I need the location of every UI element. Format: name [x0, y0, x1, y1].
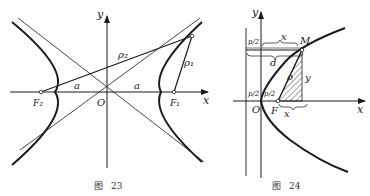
y-side-label: y — [304, 72, 311, 83]
caption-char: 图 — [272, 181, 281, 191]
y-axis-label: y — [96, 8, 104, 21]
x-top-label: x — [281, 31, 287, 42]
half-p-top-label: p/2 — [248, 38, 260, 46]
origin-label: O — [252, 104, 260, 115]
x-bottom-label: x — [284, 108, 290, 119]
caption-number: 23 — [111, 181, 123, 191]
half-p-left-label: p/2 — [248, 90, 260, 98]
focus-f1-dot — [172, 90, 176, 94]
figure-23: y x O F₂ F₁ a a ρ₂ ρ₁ 图23 — [10, 8, 210, 191]
radius-rho2-label: ρ₂ — [117, 49, 128, 60]
point-m-label: M — [299, 35, 311, 46]
caption-number: 24 — [289, 181, 301, 191]
figure-24-caption: 图24 — [272, 181, 301, 191]
diagram-canvas: y x O F₂ F₁ a a ρ₂ ρ₁ 图23 y — [0, 0, 370, 196]
focus-f1-label: F₁ — [169, 98, 180, 108]
figure-23-caption: 图23 — [94, 181, 123, 191]
point-m-dot — [300, 48, 304, 52]
point-on-hyperbola — [190, 34, 194, 38]
x-axis-label: x — [203, 94, 210, 107]
d-label: d — [270, 57, 276, 68]
origin-label: O — [97, 97, 105, 108]
focus-f2-dot — [39, 90, 43, 94]
brace-top-x — [262, 40, 298, 46]
focus-label: F — [270, 105, 279, 116]
figure-24: y x O F M p/2 p/2 p/2 x x d ρ y 图24 — [233, 6, 365, 191]
rho-label: ρ — [286, 71, 293, 82]
focus-dot — [276, 99, 280, 103]
focus-f2-label: F₂ — [32, 98, 43, 108]
x-axis-label: x — [357, 103, 364, 116]
focal-radius-2 — [41, 36, 192, 92]
half-p-mid-label: p/2 — [264, 90, 276, 98]
semi-axis-left-label: a — [74, 80, 80, 91]
radius-rho1-label: ρ₁ — [183, 57, 194, 68]
caption-char: 图 — [94, 181, 103, 191]
y-axis-label: y — [251, 6, 259, 19]
semi-axis-right-label: a — [134, 80, 140, 91]
